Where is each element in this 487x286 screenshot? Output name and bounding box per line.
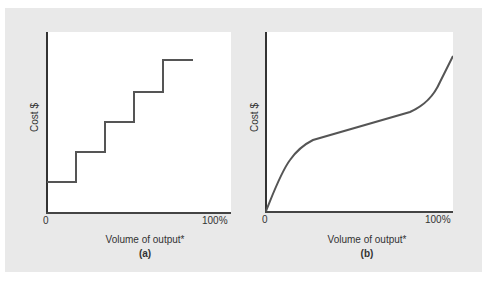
chart-b-cost-curve — [265, 32, 453, 212]
chart-a-x-label: Volume of output* — [90, 234, 200, 245]
chart-b-subtitle: (b) — [342, 248, 392, 259]
chart-b-y-label: Cost $ — [249, 103, 260, 132]
chart-a-x-tick-100: 100% — [202, 215, 228, 226]
chart-b-x-tick-0: 0 — [262, 214, 268, 225]
chart-a-subtitle: (a) — [120, 248, 170, 259]
chart-a-x-tick-0: 0 — [43, 215, 49, 226]
chart-b-x-tick-100: 100% — [425, 214, 451, 225]
chart-b-x-label: Volume of output* — [312, 234, 422, 245]
chart-a-y-label: Cost $ — [29, 103, 40, 132]
chart-a-step-line — [46, 32, 231, 213]
